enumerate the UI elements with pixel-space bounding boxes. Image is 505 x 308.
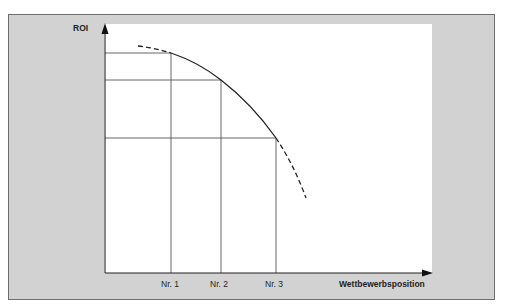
- plot-area: [104, 24, 432, 273]
- roi-curve-chart: [0, 0, 505, 308]
- x-axis-label: Wettbewerbsposition: [339, 279, 425, 289]
- y-axis-label: ROI: [73, 23, 88, 33]
- tick-label-nr2: Nr. 2: [210, 279, 228, 289]
- tick-label-nr1: Nr. 1: [161, 279, 179, 289]
- tick-label-nr3: Nr. 3: [265, 279, 283, 289]
